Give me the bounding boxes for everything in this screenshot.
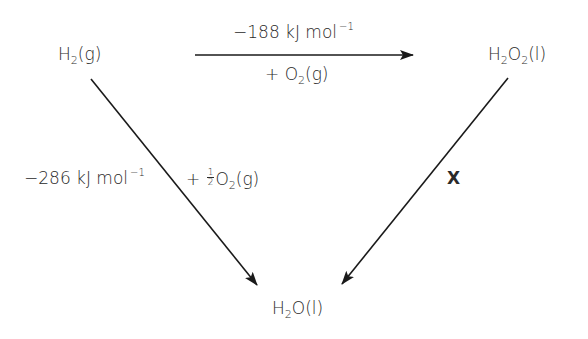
half-fraction: 12 <box>207 168 215 187</box>
h2o-sub: 2 <box>285 308 292 321</box>
node-h2o2-liquid: H2O2(l) <box>488 46 546 63</box>
right-unknown-label: X <box>447 170 460 187</box>
left-reagent-sub: 2 <box>229 179 236 192</box>
h2o2-state: (l) <box>528 44 546 64</box>
h2o2-sub1: 2 <box>501 54 508 67</box>
node-h2o-liquid: H2O(l) <box>272 300 323 317</box>
h2o-o: O <box>292 298 305 318</box>
left-enthalpy-exponent: −1 <box>130 167 145 178</box>
top-enthalpy-exponent: −1 <box>339 21 354 32</box>
left-reagent-element: O <box>215 169 228 189</box>
h2-symbol: H <box>58 44 71 64</box>
left-reagent-prefix: + <box>186 169 200 189</box>
left-reagent-label: + 12O2(g) <box>186 170 259 189</box>
top-reagent-prefix: + O <box>265 64 298 84</box>
top-enthalpy-label: −188 kJ mol−1 <box>233 24 354 41</box>
h2o-state: (l) <box>305 298 323 318</box>
left-enthalpy-value: −286 kJ mol <box>24 168 128 188</box>
left-enthalpy-label: −286 kJ mol−1 <box>24 170 145 187</box>
top-reagent-sub: 2 <box>298 74 305 87</box>
top-enthalpy-value: −188 kJ mol <box>233 22 337 42</box>
arrow-h2o2-to-h2o <box>342 78 508 284</box>
h2-subscript: 2 <box>71 54 78 67</box>
top-reagent-label: + O2(g) <box>265 66 329 83</box>
h2o2-sub2: 2 <box>521 54 528 67</box>
fraction-denominator: 2 <box>207 178 215 187</box>
left-reagent-state: (g) <box>236 169 259 189</box>
node-h2-gas: H2(g) <box>58 46 101 63</box>
h2o2-o: O <box>508 44 521 64</box>
h2-state: (g) <box>78 44 101 64</box>
top-reagent-state: (g) <box>305 64 328 84</box>
h2o2-h: H <box>488 44 501 64</box>
h2o-h: H <box>272 298 285 318</box>
